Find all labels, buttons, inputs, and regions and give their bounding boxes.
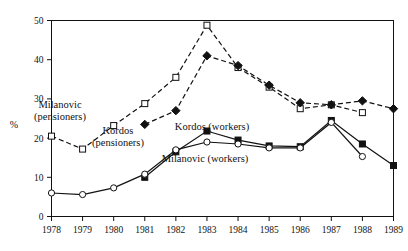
line-chart: 01020304050 1978197919801981198219831984…: [0, 0, 408, 251]
data-point-marker: [142, 101, 148, 107]
data-point-marker: [297, 145, 303, 151]
data-point-marker: [235, 141, 241, 147]
data-point-marker: [142, 171, 148, 177]
data-point-marker: [359, 110, 365, 116]
x-tick-label: 1985: [260, 225, 279, 235]
data-point-marker: [49, 133, 55, 139]
data-point-marker: [358, 97, 366, 105]
annotation-line-1: Milanovic (workers): [162, 153, 249, 165]
x-tick-label: 1987: [322, 225, 341, 235]
data-point-marker: [359, 141, 365, 147]
data-point-marker: [266, 145, 272, 151]
series-markers: [141, 52, 398, 129]
series-annotations: Milanovic(pensioners)Kordos(pensioners)K…: [34, 99, 250, 165]
chart-figure: 01020304050 1978197919801981198219831984…: [0, 0, 408, 251]
annotation-milanovic-pensioners: Milanovic(pensioners): [34, 99, 86, 123]
annotation-line-2: (pensioners): [92, 137, 144, 149]
x-tick-label: 1980: [104, 225, 123, 235]
y-tick-label: 10: [34, 173, 44, 183]
annotation-kordos-workers: Kordos (workers): [175, 121, 250, 133]
data-point-marker: [359, 153, 365, 159]
y-tick-label: 20: [34, 134, 44, 144]
data-point-marker: [391, 163, 397, 169]
series-kordos-pensioners: [141, 52, 398, 129]
y-tick-label: 0: [39, 212, 44, 222]
plot-frame: [52, 21, 394, 217]
annotation-line-2: (pensioners): [34, 111, 86, 123]
x-tick-label: 1978: [42, 225, 61, 235]
data-point-marker: [173, 74, 179, 80]
data-point-marker: [204, 22, 210, 28]
data-point-marker: [48, 190, 54, 196]
x-tick-label: 1988: [353, 225, 372, 235]
x-tick-label: 1986: [291, 225, 310, 235]
data-point-marker: [80, 146, 86, 152]
annotation-line-1: Milanovic: [38, 99, 81, 110]
data-point-marker: [204, 139, 210, 145]
x-tick-label: 1981: [135, 225, 154, 235]
annotation-line-1: Kordos (workers): [175, 121, 250, 133]
data-point-marker: [203, 52, 211, 60]
data-point-marker: [141, 120, 149, 128]
x-axis-tick-labels: 1978197919801981198219831984198519861987…: [42, 225, 403, 235]
y-tick-label: 50: [34, 16, 44, 26]
data-point-marker: [172, 106, 180, 114]
data-point-marker: [111, 185, 117, 191]
x-tick-label: 1982: [166, 225, 185, 235]
x-tick-label: 1979: [73, 225, 92, 235]
y-tick-label: 40: [34, 55, 44, 65]
data-series-layer: [48, 22, 397, 197]
x-tick-label: 1983: [197, 225, 216, 235]
annotation-line-1: Kordos: [103, 125, 134, 136]
annotation-milanovic-workers: Milanovic (workers): [162, 153, 249, 165]
data-point-marker: [389, 105, 397, 113]
annotation-kordos-pensioners: Kordos(pensioners): [92, 125, 144, 149]
data-point-marker: [328, 119, 334, 125]
x-tick-label: 1984: [229, 225, 248, 235]
data-point-marker: [79, 191, 85, 197]
x-tick-label: 1989: [384, 225, 403, 235]
x-axis-ticks: [52, 217, 394, 222]
y-axis-title: %: [10, 119, 18, 130]
